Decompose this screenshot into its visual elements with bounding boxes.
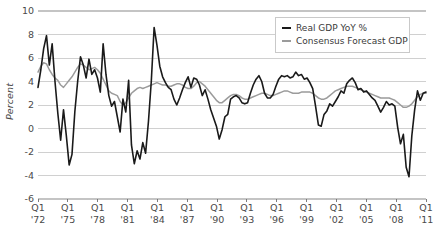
legend-label-consensus-forecast: Consensus Forecast GDP bbox=[296, 35, 408, 47]
legend-item-real-gdp: Real GDP YoY % bbox=[282, 22, 404, 34]
chart-legend: Real GDP YoY % Consensus Forecast GDP bbox=[275, 17, 410, 53]
y-tick-label-8: 8 bbox=[8, 30, 34, 40]
legend-label-real-gdp: Real GDP YoY % bbox=[296, 22, 367, 34]
legend-item-consensus-forecast: Consensus Forecast GDP bbox=[282, 35, 404, 47]
y-tick-label-2: 2 bbox=[8, 100, 34, 110]
x-tick-label-11: Q1'11 bbox=[406, 202, 437, 226]
y-tick-label--2: -2 bbox=[8, 147, 34, 157]
legend-swatch-consensus-forecast bbox=[282, 40, 291, 42]
y-tick-label-6: 6 bbox=[8, 53, 34, 63]
y-tick-label--4: -4 bbox=[8, 171, 34, 181]
legend-swatch-real-gdp bbox=[282, 27, 291, 29]
y-tick-label-10: 10 bbox=[8, 6, 34, 16]
x-axis-tick-labels: Q1'72Q1'75Q1'78Q1'81Q1'84Q1'87Q1'90Q1'93… bbox=[38, 202, 426, 238]
y-tick-label-4: 4 bbox=[8, 77, 34, 87]
series-line-consensus-forecast-gdp bbox=[38, 63, 426, 108]
y-tick-label-0: 0 bbox=[8, 124, 34, 134]
